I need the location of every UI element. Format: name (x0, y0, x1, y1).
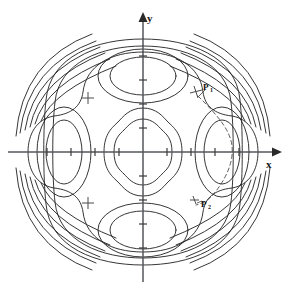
contour-plot-figure: x y P 1 P 2 x y P 1 P 2 (0, 0, 288, 288)
plot-background (0, 0, 288, 288)
svg-text:P: P (201, 199, 207, 209)
contour-plot-canvas: x y P 1 P 2 x y P 1 P 2 (0, 0, 288, 288)
svg-text:1: 1 (210, 87, 213, 93)
svg-text:2: 2 (208, 204, 211, 210)
svg-text:P: P (203, 82, 209, 92)
x-axis-label: x (266, 158, 272, 170)
y-axis-label: y (147, 12, 153, 24)
